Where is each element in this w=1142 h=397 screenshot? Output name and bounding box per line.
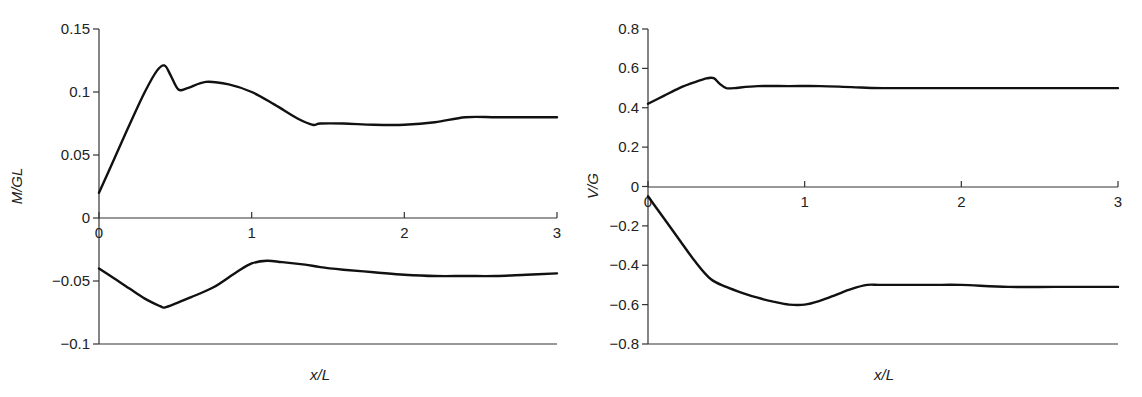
y-tick-label: −0.8	[609, 335, 639, 352]
y-tick-label: 0	[631, 178, 639, 195]
y-tick-label: 0.1	[69, 83, 90, 100]
lower-moment-curve	[99, 261, 557, 308]
y-tick-label: −0.05	[52, 272, 90, 289]
x-ticks: 0123	[95, 212, 561, 241]
y-tick-label: −0.6	[609, 296, 639, 313]
y-tick-label: −0.4	[609, 256, 639, 273]
y-ticks: 0.150.10.050−0.05−0.1	[52, 20, 99, 352]
x-tick-label: 3	[553, 224, 561, 241]
y-tick-label: −0.2	[609, 217, 639, 234]
y-ticks: 0.80.60.40.20−0.2−0.4−0.6−0.8	[609, 20, 648, 352]
y-axis-title: V/G	[584, 173, 601, 199]
upper-moment-curve	[99, 65, 557, 193]
chart-shear: 0.80.60.40.20−0.2−0.4−0.6−0.8 0123 V/G x…	[584, 20, 1122, 383]
x-tick-label: 0	[95, 224, 103, 241]
y-tick-label: 0	[82, 209, 90, 226]
x-tick-label: 2	[957, 193, 965, 210]
y-tick-label: 0.4	[618, 99, 639, 116]
x-tick-label: 1	[800, 193, 808, 210]
y-tick-label: 0.8	[618, 20, 639, 37]
chart-moment: 0.150.10.050−0.05−0.1 0123 M/GL x/L	[8, 20, 561, 383]
lower-shear-curve	[648, 196, 1118, 305]
y-tick-label: −0.1	[60, 335, 90, 352]
y-tick-label: 0.15	[61, 20, 90, 37]
x-tick-label: 2	[400, 224, 408, 241]
y-tick-label: 0.05	[61, 146, 90, 163]
y-tick-label: 0.6	[618, 59, 639, 76]
x-ticks: 0123	[644, 181, 1122, 210]
y-tick-label: 0.2	[618, 138, 639, 155]
figure-canvas: 0.150.10.050−0.05−0.1 0123 M/GL x/L 0.80…	[0, 0, 1142, 397]
x-axis-title: x/L	[309, 366, 330, 383]
x-tick-label: 3	[1114, 193, 1122, 210]
upper-shear-curve	[648, 78, 1118, 104]
x-tick-label: 1	[247, 224, 255, 241]
y-axis-title: M/GL	[8, 168, 25, 205]
x-axis-title: x/L	[873, 366, 894, 383]
